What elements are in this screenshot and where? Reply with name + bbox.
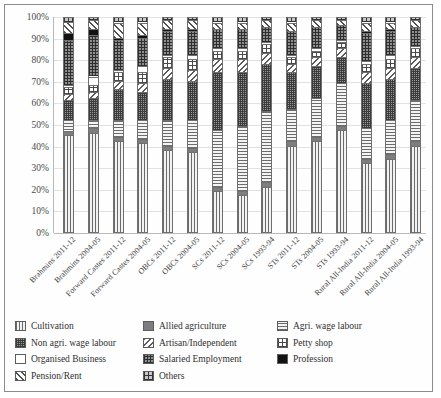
- legend-label: Cultivation: [31, 321, 74, 331]
- bar-segment: [238, 191, 247, 195]
- bar-segment: [337, 130, 346, 232]
- bar-segment: [163, 55, 172, 57]
- bar-segment: [114, 17, 123, 22]
- bar-segment: [238, 72, 247, 126]
- legend-swatch-icon: [143, 338, 154, 348]
- bar-segment: [386, 29, 395, 31]
- bar-segment: [188, 148, 197, 152]
- legend-swatch-icon: [15, 321, 26, 331]
- stacked-bar: [187, 17, 198, 233]
- bar-segment: [64, 135, 73, 232]
- bar-segment: [138, 83, 147, 92]
- bar-segment: [64, 131, 73, 135]
- bar-segment: [312, 51, 321, 57]
- bar-segment: [362, 17, 371, 22]
- legend-item[interactable]: Salaried Employment: [143, 354, 242, 364]
- legend-item[interactable]: Petty shop: [277, 338, 333, 348]
- stacked-bar: [212, 17, 223, 233]
- bar-segment: [213, 130, 222, 186]
- bar-segment: [138, 143, 147, 232]
- legend-item[interactable]: Artisan/Independent: [143, 338, 237, 348]
- y-axis-tick-label: 0%: [11, 228, 49, 238]
- legend-swatch-icon: [277, 354, 288, 364]
- bar-segment: [89, 29, 98, 35]
- legend-label: Agri. wage labour: [293, 321, 362, 331]
- legend-swatch-icon: [277, 321, 288, 331]
- bar-segment: [238, 59, 247, 72]
- bar-segment: [64, 100, 73, 119]
- bar-segment: [138, 38, 147, 66]
- bar-segment: [337, 126, 346, 130]
- bar-segment: [163, 146, 172, 150]
- legend-item[interactable]: Pension/Rent: [15, 371, 82, 381]
- bar-segment: [386, 55, 395, 59]
- bar-segment: [262, 44, 271, 53]
- bar-segment: [188, 17, 197, 20]
- y-axis-tick-label: 40%: [11, 142, 49, 152]
- bar-segment: [411, 46, 420, 48]
- bar-segment: [362, 23, 371, 32]
- bar-segment: [114, 137, 123, 141]
- stacked-bar: [88, 17, 99, 233]
- y-axis-tick-label: 80%: [11, 55, 49, 65]
- bar-segment: [337, 83, 346, 126]
- bar-segment: [163, 68, 172, 79]
- legend-swatch-icon: [15, 338, 26, 348]
- bar-segment: [114, 120, 123, 137]
- legend-item[interactable]: Non agri. wage labour: [15, 338, 116, 348]
- bar-segment: [89, 92, 98, 98]
- bar-segment: [114, 70, 123, 72]
- bar-segment: [64, 87, 73, 93]
- bar-segment: [138, 120, 147, 139]
- legend-item[interactable]: Allied agriculture: [143, 321, 226, 331]
- bar-segment: [262, 182, 271, 186]
- bar-segment: [114, 141, 123, 232]
- gridline: [54, 233, 426, 234]
- bar-segment: [64, 17, 73, 22]
- bar-segment: [362, 64, 371, 73]
- bar-segment: [188, 81, 197, 120]
- bar-segment: [238, 126, 247, 191]
- stacked-bar: [410, 17, 421, 233]
- bar-segment: [386, 17, 395, 22]
- bar-segment: [213, 51, 222, 60]
- bar-segment: [238, 195, 247, 232]
- legend-swatch-icon: [143, 354, 154, 364]
- legend-label: Petty shop: [293, 338, 333, 348]
- legend-label: Artisan/Independent: [159, 338, 237, 348]
- stacked-bar: [311, 17, 322, 233]
- bar-segment: [287, 55, 296, 57]
- legend-item[interactable]: Agri. wage labour: [277, 321, 362, 331]
- bar-segment: [188, 59, 197, 70]
- bar-segment: [386, 23, 395, 29]
- legend-swatch-icon: [277, 338, 288, 348]
- bar-segment: [362, 163, 371, 232]
- bar-segment: [213, 48, 222, 50]
- stacked-bar: [336, 17, 347, 233]
- bar-segment: [163, 17, 172, 20]
- legend-item[interactable]: Cultivation: [15, 321, 74, 331]
- bar-segment: [337, 48, 346, 57]
- bar-segment: [163, 150, 172, 232]
- bar-segment: [312, 48, 321, 50]
- bar-segment: [114, 23, 123, 38]
- bar-segment: [64, 33, 73, 39]
- bar-segment: [411, 48, 420, 57]
- bar-segment: [138, 139, 147, 143]
- bar-segment: [188, 20, 197, 29]
- legend-item[interactable]: Profession: [277, 354, 333, 364]
- bar-segment: [312, 66, 321, 98]
- bar-segment: [262, 27, 271, 42]
- bar-segment: [312, 27, 321, 49]
- legend-item[interactable]: Organised Business: [15, 354, 106, 364]
- bar-segment: [138, 35, 147, 37]
- bar-segment: [287, 109, 296, 141]
- chart-legend: CultivationAllied agricultureAgri. wage …: [15, 321, 424, 389]
- bar-segment: [238, 23, 247, 29]
- legend-item[interactable]: Others: [143, 371, 184, 381]
- bar-segment: [114, 81, 123, 90]
- legend-label: Organised Business: [31, 354, 106, 364]
- bar-segment: [89, 128, 98, 132]
- chart-frame: 100%90%80%70%60%50%40%30%20%10%0% Brahmi…: [4, 4, 433, 392]
- legend-swatch-icon: [143, 371, 154, 381]
